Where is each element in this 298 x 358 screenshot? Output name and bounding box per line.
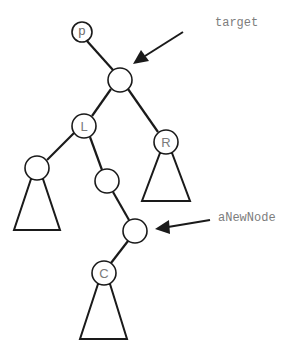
target-label: target: [215, 16, 258, 30]
node-LR: [95, 169, 119, 193]
edge-L-LR: [90, 137, 102, 170]
node-L-label: L: [80, 119, 87, 134]
edge-p-target: [87, 41, 113, 70]
edge-target-R: [128, 89, 158, 132]
aNewNode-arrow-shaft: [168, 220, 210, 227]
node-R-label: R: [161, 135, 170, 150]
target-arrow-head-icon: [133, 50, 149, 64]
node-target: [108, 68, 132, 92]
annotation-aNewNode: aNewNode: [155, 211, 276, 234]
aNewNode-label: aNewNode: [218, 211, 276, 225]
edge-aNewNode-C: [111, 241, 128, 263]
tree-nodes: p L R C: [25, 22, 178, 285]
node-aNewNode: [123, 219, 147, 243]
edge-LR-aNewNode: [113, 192, 129, 220]
subtree-under-LL-triangle: [14, 179, 60, 230]
node-R: R: [154, 130, 178, 154]
node-p: p: [72, 22, 92, 42]
target-arrow-shaft: [145, 32, 183, 56]
edge-target-L: [92, 89, 111, 116]
aNewNode-arrow-head-icon: [155, 220, 170, 234]
edge-L-LL: [47, 133, 74, 160]
node-C-label: C: [99, 266, 108, 281]
annotation-target: target: [133, 16, 258, 64]
tree-diagram: p L R C target: [0, 0, 298, 358]
node-C: C: [92, 261, 116, 285]
node-p-label: p: [78, 24, 86, 39]
subtree-under-C-triangle: [80, 284, 127, 339]
subtree-under-R-triangle: [142, 153, 190, 201]
node-LL: [25, 156, 49, 180]
node-L: L: [72, 114, 96, 138]
